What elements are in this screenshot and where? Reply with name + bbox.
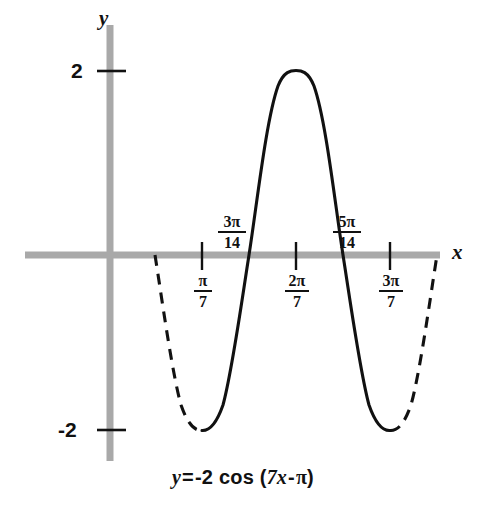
equation-open-paren: ( [260,466,267,488]
fraction-numerator: 5π [329,213,365,231]
equation-caption: y=-2 cos (7x-π) [0,466,486,489]
fraction-denominator: 14 [329,233,365,251]
equation-function: cos [219,466,254,488]
fraction-denominator: 7 [375,292,407,310]
equation-lhs: y [172,466,181,488]
equation-minus: - [287,466,296,488]
equation-equals: = [181,466,195,488]
graph-figure: y x 2 -2 π 7 2π 7 3π 7 3π 14 5π 14 y=-2 … [0,0,486,507]
equation-amplitude: -2 [195,466,213,488]
fraction-denominator: 7 [281,292,313,310]
x-tick-label-2pi-over-7: 2π 7 [281,272,313,311]
fraction-denominator: 14 [214,233,250,251]
x-tick-label-pi-over-7: π 7 [190,272,216,311]
fraction-numerator: 2π [281,272,313,290]
equation-close-paren: ) [307,466,314,488]
equation-phase: π [296,466,307,488]
y-tick-label-2: 2 [71,60,83,81]
y-axis-label: y [99,8,108,29]
x-axis-label: x [452,242,463,263]
fraction-numerator: π [190,272,216,290]
fraction-denominator: 7 [190,292,216,310]
x-tick-label-3pi-over-14: 3π 14 [214,213,250,252]
x-tick-label-5pi-over-14: 5π 14 [329,213,365,252]
y-tick-label-minus-2: -2 [58,419,77,440]
equation-frequency-term: 7x [267,466,287,488]
x-tick-label-3pi-over-7: 3π 7 [375,272,407,311]
fraction-numerator: 3π [214,213,250,231]
fraction-numerator: 3π [375,272,407,290]
